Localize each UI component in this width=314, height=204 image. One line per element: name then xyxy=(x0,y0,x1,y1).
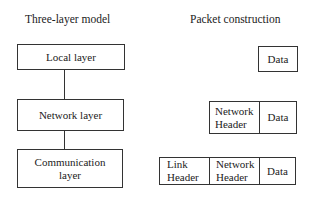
local-layer-box: Local layer xyxy=(17,44,125,70)
three-layer-model-title: Three-layer model xyxy=(25,13,110,25)
packet-row-link: Link Header Network Header Data xyxy=(159,157,296,185)
communication-layer-box: Communication layer xyxy=(17,149,123,188)
local-layer-label: Local layer xyxy=(46,51,96,64)
network-header-line2: Header xyxy=(216,171,248,184)
network-layer-box: Network layer xyxy=(17,99,124,131)
packet-row-network: Network Header Data xyxy=(209,101,297,134)
data-label: Data xyxy=(267,165,288,178)
link-header-line2: Header xyxy=(167,171,199,184)
network-header-line2: Header xyxy=(215,118,247,131)
connector-local-network xyxy=(64,70,65,99)
data-cell: Data xyxy=(259,102,296,133)
data-label: Data xyxy=(268,53,289,66)
connector-network-communication xyxy=(64,131,65,149)
network-header-cell: Network Header xyxy=(210,102,259,133)
data-cell: Data xyxy=(259,47,297,71)
data-cell: Data xyxy=(259,158,295,184)
network-header-cell: Network Header xyxy=(209,158,259,184)
data-label: Data xyxy=(268,111,289,124)
link-header-line1: Link xyxy=(167,158,188,171)
network-header-line1: Network xyxy=(216,158,255,171)
communication-layer-label-line2: layer xyxy=(59,169,81,182)
network-header-line1: Network xyxy=(215,105,254,118)
communication-layer-label-line1: Communication xyxy=(35,156,106,169)
network-layer-label: Network layer xyxy=(39,109,102,122)
packet-construction-title: Packet construction xyxy=(190,13,280,25)
link-header-cell: Link Header xyxy=(160,158,209,184)
packet-row-data-only: Data xyxy=(258,46,298,72)
